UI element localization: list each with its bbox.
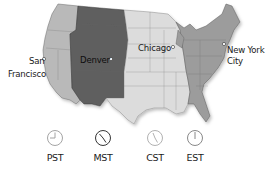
time-zone-map: San Francisco Denver Chicago New York Ci… <box>0 0 270 173</box>
city-label-new-york-line1: New York <box>227 45 264 55</box>
us-map-graphic <box>0 0 270 173</box>
city-label-san-francisco-line2: Francisco <box>8 69 46 79</box>
city-label-denver: Denver <box>80 55 110 65</box>
clock-mst <box>96 131 111 146</box>
city-label-new-york-line2: City <box>227 56 243 66</box>
city-label-chicago: Chicago <box>138 43 171 53</box>
clock-cst <box>148 131 163 146</box>
clock-pst <box>48 131 63 146</box>
clock-label-cst: CST <box>140 153 170 163</box>
city-label-san-francisco-line1: San <box>29 56 44 66</box>
clock-label-pst: PST <box>40 153 70 163</box>
city-marker-chicago <box>171 45 174 48</box>
city-marker-new-york <box>222 42 225 45</box>
clock-label-mst: MST <box>88 153 118 163</box>
clock-label-est: EST <box>180 153 210 163</box>
clock-est <box>188 131 203 146</box>
